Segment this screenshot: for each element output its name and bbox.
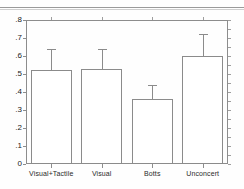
- right-tick-mark: [228, 38, 231, 39]
- y-tick-mark: [23, 128, 26, 129]
- x-axis-category-label: Unconcert: [186, 170, 219, 177]
- y-tick-label: .4: [15, 88, 22, 96]
- error-bar-cap: [47, 49, 56, 50]
- y-tick-mark: [23, 20, 26, 21]
- bar: [182, 56, 223, 164]
- x-tick-mark: [203, 164, 204, 168]
- y-tick-label: .2: [15, 124, 22, 132]
- right-tick-mark: [228, 101, 231, 102]
- right-tick-mark: [228, 56, 231, 57]
- top-axis-line: [26, 20, 228, 21]
- right-tick-mark: [228, 128, 231, 129]
- y-tick-mark: [23, 146, 26, 147]
- x-axis-category-label: Visual: [92, 170, 112, 177]
- y-tick-label: .8: [15, 16, 22, 24]
- error-bar-line: [203, 34, 204, 56]
- header-rule: [0, 7, 244, 8]
- right-tick-mark: [228, 20, 231, 21]
- y-tick-mark: [23, 38, 26, 39]
- y-tick-label: .7: [15, 34, 22, 42]
- right-tick-mark: [228, 47, 231, 48]
- plot-area: 0.1.2.3.4.5.6.7.8: [26, 20, 228, 164]
- error-bar-cap: [199, 34, 208, 35]
- y-tick-label: .5: [15, 70, 22, 78]
- error-bar-cap: [148, 85, 157, 86]
- right-tick-mark: [228, 110, 231, 111]
- top-tick-mark: [203, 17, 204, 20]
- y-tick-mark: [23, 74, 26, 75]
- right-tick-mark: [228, 29, 231, 30]
- y-tick-label: .3: [15, 106, 22, 114]
- y-tick-mark: [23, 56, 26, 57]
- bar: [132, 99, 173, 164]
- right-tick-mark: [228, 92, 231, 93]
- x-tick-mark: [102, 164, 103, 168]
- y-tick-mark: [23, 164, 26, 165]
- header-rule-secondary: [0, 9, 244, 10]
- right-tick-mark: [228, 146, 231, 147]
- y-tick-mark: [23, 110, 26, 111]
- right-tick-mark: [228, 83, 231, 84]
- right-tick-mark: [228, 74, 231, 75]
- error-bar-line: [51, 49, 52, 71]
- error-bar-line: [152, 85, 153, 99]
- y-axis-line: [26, 20, 27, 164]
- bar: [81, 69, 122, 164]
- x-tick-mark: [51, 164, 52, 168]
- top-tick-mark: [51, 17, 52, 20]
- x-axis-category-label: Visual+Tactile: [29, 170, 73, 177]
- y-tick-mark: [23, 92, 26, 93]
- right-tick-mark: [228, 137, 231, 138]
- right-tick-mark: [228, 155, 231, 156]
- right-tick-mark: [228, 164, 231, 165]
- y-tick-label: .6: [15, 52, 22, 60]
- top-tick-mark: [152, 17, 153, 20]
- bar: [31, 70, 72, 164]
- error-bar-line: [102, 49, 103, 69]
- x-axis-category-label: Botts: [144, 170, 160, 177]
- bar-chart-figure: 0.1.2.3.4.5.6.7.8 Visual+TactileVisualBo…: [0, 0, 244, 189]
- y-tick-label: 0: [18, 160, 22, 168]
- right-tick-mark: [228, 119, 231, 120]
- right-tick-mark: [228, 65, 231, 66]
- top-tick-mark: [102, 17, 103, 20]
- x-tick-mark: [152, 164, 153, 168]
- y-tick-label: .1: [15, 142, 22, 150]
- error-bar-cap: [98, 49, 107, 50]
